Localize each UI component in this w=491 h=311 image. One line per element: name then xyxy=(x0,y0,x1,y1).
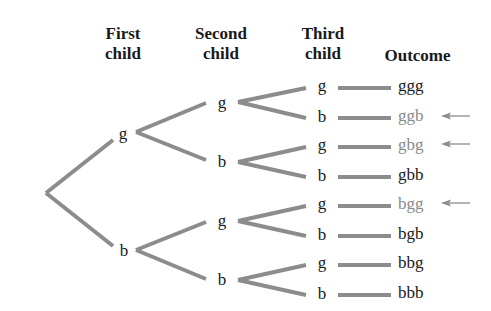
branch-root-g xyxy=(46,140,113,193)
branch-gg-b xyxy=(238,102,306,118)
node-third-2: b xyxy=(318,108,327,126)
outcome-ggg: ggg xyxy=(398,77,424,95)
node-second-g-1: g xyxy=(218,94,227,112)
outcome-gbb: gbb xyxy=(398,166,424,184)
outcome-bbg: bbg xyxy=(398,254,424,272)
branch-bb-g xyxy=(238,265,306,280)
node-third-6: b xyxy=(318,226,327,244)
branch-g-g xyxy=(136,103,206,132)
branch-bg-g xyxy=(238,206,306,221)
arrow-left-icon xyxy=(440,198,472,208)
outcome-bbb: bbb xyxy=(398,284,424,302)
arrow-left-icon xyxy=(440,111,472,121)
node-second-b-2: b xyxy=(218,271,227,289)
branch-b-b xyxy=(136,250,206,279)
outcome-gbg: gbg xyxy=(398,136,424,154)
node-third-3: g xyxy=(318,136,327,154)
node-first-b: b xyxy=(120,242,129,260)
outcome-ggb: ggb xyxy=(398,107,424,125)
node-third-7: g xyxy=(318,254,327,272)
node-third-5: g xyxy=(318,195,327,213)
branch-g-b xyxy=(136,132,206,160)
outcome-bgb: bgb xyxy=(398,225,424,243)
node-second-b-1: b xyxy=(218,153,227,171)
branch-gb-b xyxy=(238,162,306,177)
arrow-left-icon xyxy=(440,139,472,149)
branch-bg-b xyxy=(238,221,306,236)
branch-bb-b xyxy=(238,280,306,295)
node-third-8: b xyxy=(318,285,327,303)
branch-b-g xyxy=(136,222,206,250)
branch-root-b xyxy=(46,193,113,246)
node-third-4: b xyxy=(318,167,327,185)
outcome-bgg: bgg xyxy=(398,195,424,213)
node-first-g: g xyxy=(119,125,128,143)
node-second-g-2: g xyxy=(218,212,227,230)
branch-gg-g xyxy=(238,88,306,102)
node-third-1: g xyxy=(318,77,327,95)
branch-gb-g xyxy=(238,147,306,162)
